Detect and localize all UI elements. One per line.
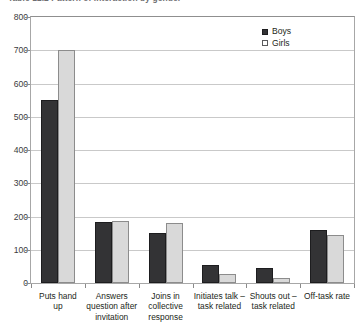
x-axis-tick-mark (139, 284, 140, 288)
x-axis-tick-mark (31, 284, 32, 288)
y-axis-tick-mark (25, 117, 30, 118)
bar-boys (41, 100, 58, 283)
x-axis-tick-mark (246, 284, 247, 288)
bars-layer (31, 17, 354, 283)
x-axis-tick-mark (354, 284, 355, 288)
bar-group (85, 17, 139, 283)
bar-girls (327, 235, 344, 283)
figure-caption: Table 12.2 Pattern of interaction by gen… (8, 0, 308, 3)
bar-group (246, 17, 300, 283)
bar-boys (256, 268, 273, 283)
bar-girls (219, 274, 236, 283)
bar-group (139, 17, 193, 283)
y-axis-tick-mark (25, 84, 30, 85)
bar-girls (273, 278, 290, 283)
bar-girls (166, 223, 183, 283)
bar-group (300, 17, 354, 283)
y-axis-tick-mark (25, 250, 30, 251)
bar-boys (149, 233, 166, 283)
y-axis-tick-mark (25, 217, 30, 218)
legend-item-boys: Boys (262, 26, 291, 38)
legend-label-boys: Boys (272, 26, 291, 38)
legend-item-girls: Girls (262, 38, 291, 50)
y-axis-tick-mark (25, 50, 30, 51)
bar-boys (310, 230, 327, 283)
legend-swatch-girls-icon (262, 40, 268, 46)
x-axis-tick-mark (300, 284, 301, 288)
chart-figure: Table 12.2 Pattern of interaction by gen… (0, 0, 364, 331)
x-axis-tick-label: Off-task rate (294, 291, 360, 301)
x-axis-tick-mark (193, 284, 194, 288)
bar-group (31, 17, 85, 283)
bar-boys (202, 265, 219, 283)
bar-girls (112, 221, 129, 284)
legend-label-girls: Girls (272, 38, 290, 50)
y-axis-tick-mark (25, 183, 30, 184)
bar-girls (58, 50, 75, 283)
x-axis-tick-mark (85, 284, 86, 288)
legend-swatch-boys-icon (262, 29, 268, 35)
bar-boys (95, 222, 112, 284)
y-axis-tick-mark (25, 150, 30, 151)
bar-group (193, 17, 247, 283)
y-axis-tick-mark (25, 283, 30, 284)
y-axis-tick-mark (25, 17, 30, 18)
chart-legend: Boys Girls (262, 26, 291, 49)
